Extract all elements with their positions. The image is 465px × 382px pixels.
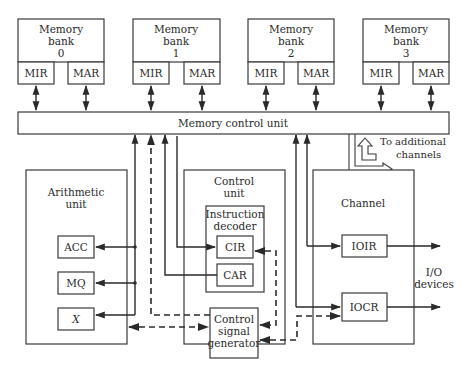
memory-bank-0: Memory bank 0 MIR MAR bbox=[18, 19, 104, 84]
mir-label-3: MIR bbox=[370, 67, 394, 79]
channels-in-arrow bbox=[358, 138, 376, 160]
instruction-decoder: Instruction decoder CIR CAR bbox=[206, 206, 265, 292]
memory-bank-2: Memory bank 2 MIR MAR bbox=[248, 19, 334, 84]
mq-label: MQ bbox=[66, 277, 86, 289]
memory-bank-2-title: Memory bbox=[269, 23, 313, 35]
mar-label-2: MAR bbox=[303, 67, 330, 79]
mar-label-3: MAR bbox=[418, 67, 445, 79]
memory-control-unit-label: Memory control unit bbox=[178, 117, 289, 129]
mir-label-1: MIR bbox=[140, 67, 164, 79]
signal-generator-line1: Control bbox=[214, 313, 255, 325]
memory-bank-1: Memory bank 1 MIR MAR bbox=[133, 19, 220, 84]
acc-label: ACC bbox=[63, 241, 88, 253]
additional-channels-line1: To additional bbox=[380, 136, 446, 147]
memory-bank-2-subtitle: bank bbox=[278, 35, 305, 47]
memory-bank-3: Memory bank 3 MIR MAR bbox=[363, 19, 449, 84]
mir-label-0: MIR bbox=[25, 67, 49, 79]
mar-label-1: MAR bbox=[189, 67, 216, 79]
control-unit-title: Control bbox=[214, 175, 255, 187]
arithmetic-unit-subtitle: unit bbox=[65, 198, 87, 210]
mir-label-2: MIR bbox=[255, 67, 279, 79]
memory-bank-3-subtitle: bank bbox=[393, 35, 420, 47]
memory-bank-0-subtitle: bank bbox=[48, 35, 75, 47]
channel-unit: Channel IOIR IOCR bbox=[313, 170, 414, 344]
junction-acc bbox=[133, 245, 137, 249]
control-unit-subtitle: unit bbox=[223, 187, 245, 199]
arithmetic-unit: Arithmetic unit ACC MQ X bbox=[26, 170, 127, 344]
instruction-decoder-subtitle: decoder bbox=[213, 220, 257, 232]
computer-organization-diagram: Memory bank 0 MIR MAR Memory bank 1 MIR … bbox=[0, 0, 465, 382]
additional-channels-line2: channels bbox=[396, 149, 441, 160]
memory-bank-1-index: 1 bbox=[173, 47, 180, 59]
cir-label: CIR bbox=[225, 241, 246, 253]
memory-bus-arrows bbox=[36, 86, 431, 110]
car-label: CAR bbox=[223, 269, 248, 281]
memory-bank-0-title: Memory bbox=[39, 23, 83, 35]
io-devices-line2: devices bbox=[414, 278, 454, 290]
channel-title: Channel bbox=[341, 197, 386, 209]
arithmetic-unit-title: Arithmetic bbox=[47, 186, 105, 198]
memory-bank-0-index: 0 bbox=[58, 47, 65, 59]
memory-bank-1-subtitle: bank bbox=[163, 35, 190, 47]
memory-control-unit: Memory control unit bbox=[18, 112, 449, 134]
control-signal-generator: Control signal generator bbox=[208, 308, 262, 358]
memory-bank-2-index: 2 bbox=[288, 47, 295, 59]
ioir-label: IOIR bbox=[352, 240, 378, 252]
memory-bank-3-index: 3 bbox=[403, 47, 410, 59]
memory-bank-3-title: Memory bbox=[384, 23, 428, 35]
control-unit: Control unit Instruction decoder CIR CAR… bbox=[184, 170, 285, 358]
x-label: X bbox=[71, 313, 80, 325]
iocr-label: IOCR bbox=[350, 301, 380, 313]
additional-channels-connector: To additional channels bbox=[349, 134, 446, 175]
instruction-decoder-title: Instruction bbox=[206, 208, 265, 220]
memory-bank-1-title: Memory bbox=[154, 23, 198, 35]
junction-mq bbox=[133, 281, 137, 285]
io-devices-line1: I/O bbox=[426, 266, 443, 278]
mar-label-0: MAR bbox=[73, 67, 100, 79]
signal-generator-line3: generator bbox=[208, 337, 262, 349]
signal-generator-line2: signal bbox=[218, 325, 250, 337]
